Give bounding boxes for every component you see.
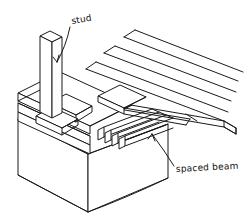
- decking-planks-group: [84, 30, 243, 134]
- decking-plank-3-end: [86, 62, 96, 69]
- decking-plank-2-end: [104, 46, 115, 53]
- label-spaced-beam: spaced beam: [176, 161, 239, 174]
- spaced-beam-slat-2-top: [111, 112, 159, 130]
- stud-post-right-face: [52, 37, 62, 118]
- decking-plank-1-end: [124, 30, 135, 37]
- decking-plank-2: [115, 46, 236, 92]
- construction-detail-sketch: stud spaced beam: [0, 0, 246, 224]
- spaced-beam-slat-2-end: [105, 130, 111, 143]
- connector-rail-cap: [186, 119, 190, 125]
- isometric-line-drawing: stud spaced beam: [0, 0, 246, 224]
- stud-post-group: [40, 31, 62, 118]
- stud-post-front-face: [40, 36, 52, 118]
- label-stud: stud: [71, 13, 93, 26]
- decking-plank-1-lower: [124, 37, 238, 81]
- decking-plank-1: [135, 30, 243, 72]
- spaced-beam-slat-1-end: [98, 127, 104, 140]
